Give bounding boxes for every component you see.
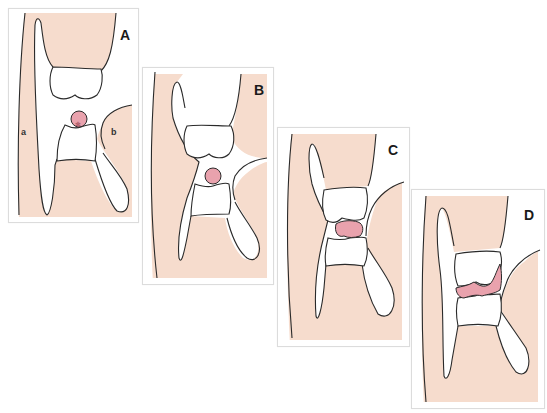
lesion-circle [205,168,221,184]
panel-c: C [277,127,410,347]
panel-b-illustration [143,68,273,284]
lesion-oval [335,221,362,238]
region-label-a: a [21,127,26,137]
panel-b: B [142,67,274,285]
panel-label-d: D [524,207,534,223]
region-label-b: b [111,127,117,137]
lesion-marker-icon: ✻ [75,121,81,129]
panel-label-c: C [388,142,398,158]
panel-a-illustration [9,9,138,222]
panel-a: A a b ✻ [8,8,139,223]
panel-d: D [411,189,545,409]
panel-label-b: B [254,82,264,98]
panel-label-a: A [120,27,130,43]
panel-c-illustration [278,128,409,346]
